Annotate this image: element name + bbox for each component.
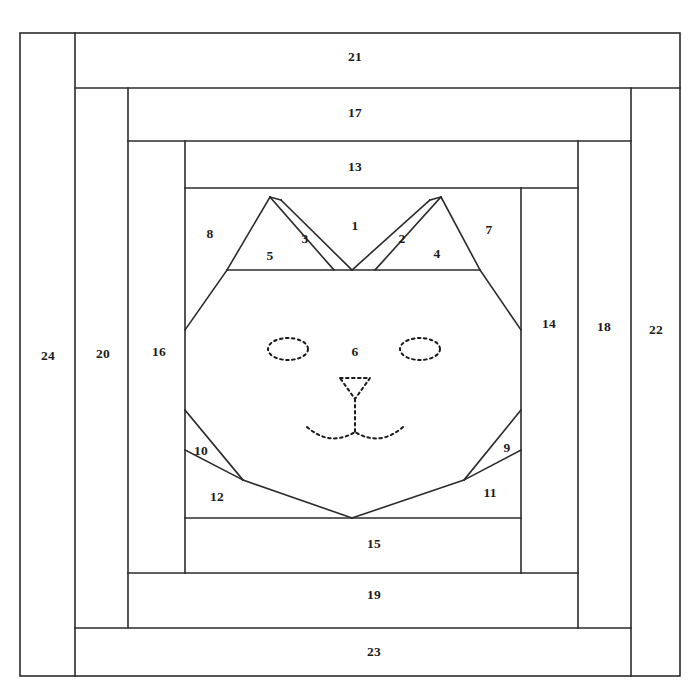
patch-label-9: 9 (504, 440, 511, 455)
patch-label-20: 20 (96, 346, 110, 361)
patch-label-2: 2 (399, 231, 406, 246)
patch-label-19: 19 (367, 587, 381, 602)
patch-label-18: 18 (597, 319, 611, 334)
patch-label-14: 14 (542, 316, 556, 331)
patch-label-17: 17 (348, 105, 362, 120)
patch-label-6: 6 (352, 344, 359, 359)
pattern-canvas: 1 2 3 4 5 6 7 8 9 10 11 12 13 14 15 16 1… (0, 0, 700, 700)
outer-frame-rect (20, 33, 680, 676)
patch-label-15: 15 (367, 536, 381, 551)
patch-label-3: 3 (302, 231, 309, 246)
patch-label-13: 13 (348, 159, 362, 174)
patch-label-16: 16 (152, 344, 166, 359)
patch-label-5: 5 (267, 248, 274, 263)
patch-label-4: 4 (434, 246, 441, 261)
quilt-pattern-diagram: 1 2 3 4 5 6 7 8 9 10 11 12 13 14 15 16 1… (0, 0, 700, 700)
patch-label-1: 1 (352, 218, 359, 233)
patch-label-12: 12 (210, 489, 224, 504)
patch-label-8: 8 (207, 226, 214, 241)
patch-label-10: 10 (194, 443, 208, 458)
patch-label-21: 21 (348, 49, 362, 64)
patch-label-7: 7 (486, 222, 493, 237)
patch-label-11: 11 (483, 485, 496, 500)
patch-label-23: 23 (367, 644, 381, 659)
border-ring-outer (20, 33, 680, 676)
patch-label-22: 22 (649, 322, 663, 337)
patch-label-24: 24 (41, 348, 55, 363)
